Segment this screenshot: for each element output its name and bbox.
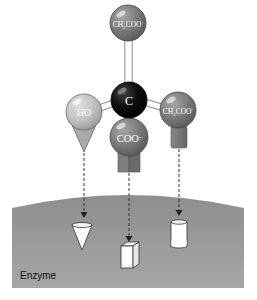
svg-text:CH2COO-: CH2COO- bbox=[163, 107, 194, 117]
svg-text:C: C bbox=[125, 94, 133, 108]
enzyme-diagram: Enzyme CH2COO- HO bbox=[0, 0, 257, 300]
atom-bottom: COO- bbox=[110, 118, 148, 156]
cylinder-stem bbox=[171, 126, 187, 148]
pocket-square-prism bbox=[121, 242, 139, 268]
atom-left: HO bbox=[66, 94, 102, 130]
pocket-cylinder bbox=[171, 220, 187, 248]
enzyme-surface: Enzyme bbox=[12, 195, 244, 288]
atom-right: CH2COO- bbox=[160, 92, 196, 128]
enzyme-label: Enzyme bbox=[20, 270, 57, 281]
svg-text:COO-: COO- bbox=[117, 133, 142, 144]
atom-center-carbon: C bbox=[111, 82, 147, 118]
svg-text:HO: HO bbox=[77, 107, 91, 118]
svg-text:CH2COO-: CH2COO- bbox=[113, 20, 144, 30]
atom-top: CH2COO- bbox=[110, 5, 146, 41]
